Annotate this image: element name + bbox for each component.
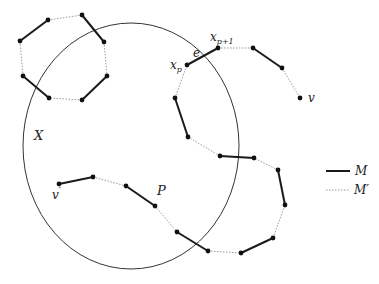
- label-set-x: X: [33, 128, 44, 143]
- path-node: [276, 168, 281, 173]
- path-node: [216, 46, 221, 51]
- path-edge-m: [220, 156, 254, 158]
- path-node: [206, 249, 211, 254]
- label-path-p: P: [156, 183, 166, 198]
- path-node: [153, 204, 158, 209]
- nodes-group: [18, 13, 303, 256]
- path-node: [185, 63, 190, 68]
- path-edge-m-prime: [254, 158, 278, 170]
- path-edge-m: [187, 48, 218, 65]
- path-node: [186, 135, 191, 140]
- cycle-edge-m: [20, 20, 48, 41]
- cycle-edge-m: [23, 76, 49, 98]
- label-v: v: [308, 91, 315, 105]
- set-x-ellipse: [23, 23, 239, 269]
- cycle-node: [47, 96, 52, 101]
- label-x-p-plus-1: xp+1: [210, 30, 234, 46]
- path-node: [124, 184, 129, 189]
- cycle-edge-m-prime: [20, 41, 23, 76]
- cycle-node: [80, 98, 85, 103]
- path-edge-m-prime: [208, 251, 241, 253]
- path-edge-m: [253, 48, 282, 68]
- legend: M M′: [326, 164, 369, 197]
- cycle-node: [18, 39, 23, 44]
- path-node: [283, 203, 288, 208]
- label-x-p: xp: [170, 58, 182, 74]
- path-edge-m: [126, 186, 155, 206]
- cycle-node: [46, 18, 51, 23]
- path-node: [91, 175, 96, 180]
- cycle-edge-m-prime: [104, 42, 107, 76]
- path-node: [252, 156, 257, 161]
- path-node: [271, 236, 276, 241]
- label-v-prime: v′: [52, 185, 62, 202]
- path-edge-m: [278, 170, 285, 205]
- path-edge-m-prime: [155, 206, 177, 232]
- legend-m-label: M: [354, 164, 368, 178]
- path-node: [251, 46, 256, 51]
- diagram-canvas: X P v′ v xp xp+1 e M M′: [0, 0, 379, 284]
- cycle-node: [80, 13, 85, 18]
- path-edge-m-prime: [93, 177, 126, 186]
- cycle-edge-m-prime: [49, 98, 82, 100]
- legend-m-prime-label: M′: [353, 183, 369, 197]
- cycle-edge-m: [82, 15, 104, 42]
- path-edge-m: [177, 232, 208, 251]
- path-edge-m: [175, 98, 188, 137]
- path-edge-m-prime: [188, 137, 220, 156]
- cycle-node: [21, 74, 26, 79]
- path-node: [175, 230, 180, 235]
- path-node: [280, 66, 285, 71]
- label-edge-e: e: [193, 46, 200, 60]
- path-node: [173, 96, 178, 101]
- path-edge-m-prime: [282, 68, 300, 98]
- cycle-node: [102, 40, 107, 45]
- path-node: [239, 251, 244, 256]
- path-node: [218, 154, 223, 159]
- cycle-edge-m: [82, 76, 107, 100]
- path-edge-m: [59, 177, 93, 184]
- path-edge-m-prime: [273, 205, 285, 238]
- cycle-edge-m-prime: [48, 15, 82, 20]
- path-edge-m: [241, 238, 273, 253]
- path-node: [298, 96, 303, 101]
- cycle-node: [105, 74, 110, 79]
